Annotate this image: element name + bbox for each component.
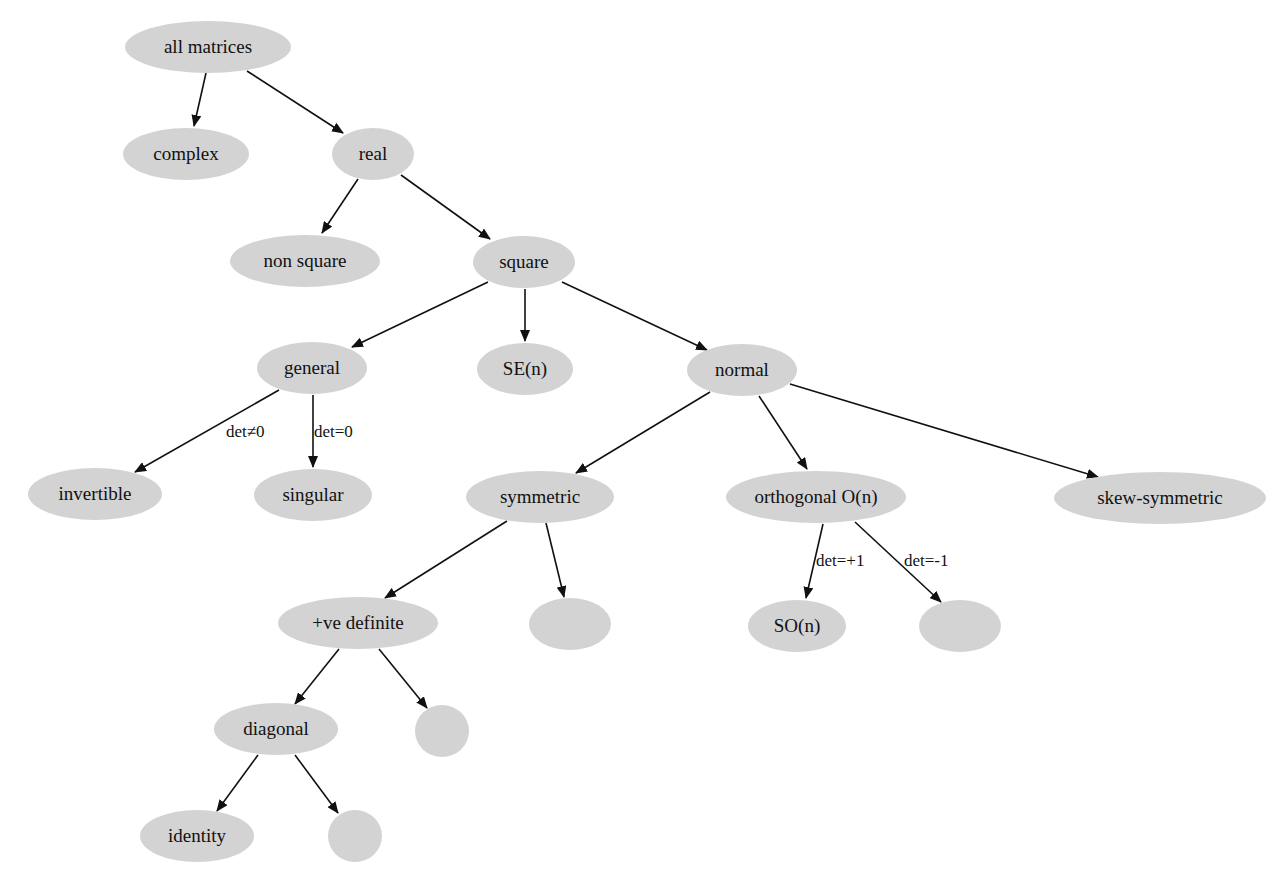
node-square: square (473, 236, 575, 288)
node-complex: complex (123, 128, 249, 180)
node-identity: identity (140, 810, 254, 862)
edge-square-to-normal (562, 282, 707, 350)
arrow-icon (217, 755, 258, 811)
arrow-icon (379, 649, 427, 708)
node-ellipse (328, 810, 382, 862)
arrow-icon (576, 392, 710, 473)
node-label: diagonal (243, 718, 308, 739)
node-symmetric: symmetric (466, 471, 614, 523)
arrow-icon (790, 384, 1098, 477)
node-non-square: non square (230, 235, 380, 287)
node-pos-definite: +ve definite (278, 597, 438, 649)
edge-diagonal-to-diag_other (295, 755, 338, 813)
arrow-icon (546, 523, 564, 597)
arrow-icon (562, 282, 707, 350)
node-singular: singular (254, 469, 372, 521)
node-label: complex (153, 143, 219, 164)
node-label: invertible (59, 483, 132, 504)
edge-all_matrices-to-real (247, 71, 343, 133)
edge-real-to-non_square (322, 179, 358, 233)
node-label: SE(n) (503, 358, 547, 380)
edge-pos_definite-to-pd_other (379, 649, 427, 708)
arrow-icon (247, 71, 343, 133)
arrow-icon (759, 396, 807, 469)
node-real: real (332, 128, 414, 180)
node-general: general (257, 342, 367, 394)
edges: det≠0det=0det=+1det=-1 (135, 71, 1098, 813)
edge-label: det≠0 (226, 422, 265, 441)
edge-general-to-singular: det=0 (313, 395, 353, 467)
arrow-icon (352, 282, 488, 347)
node-normal: normal (687, 344, 797, 396)
edge-normal-to-skew_symmetric (790, 384, 1098, 477)
node-label: general (284, 357, 340, 378)
node-label: normal (715, 359, 769, 380)
edge-square-to-general (352, 282, 488, 347)
edge-symmetric-to-pos_definite (385, 521, 507, 598)
arrow-icon (194, 73, 206, 126)
node-sym-other (529, 598, 611, 650)
edge-orthogonal-to-so_n: det=+1 (806, 524, 864, 598)
node-label: real (359, 143, 387, 164)
nodes: all matricescomplexrealnon squaresquareg… (28, 21, 1266, 862)
edge-real-to-square (401, 175, 490, 239)
arrow-icon (322, 179, 358, 233)
node-label: symmetric (500, 486, 580, 507)
node-all-matrices: all matrices (125, 21, 291, 73)
edge-normal-to-symmetric (576, 392, 710, 473)
node-label: square (499, 251, 549, 272)
edge-label: det=+1 (816, 551, 864, 570)
node-se-n: SE(n) (477, 343, 573, 395)
edge-general-to-invertible: det≠0 (135, 390, 279, 472)
edge-symmetric-to-sym_other (546, 523, 564, 597)
node-diag-other (328, 810, 382, 862)
node-det-neg-one (919, 600, 1001, 652)
edge-pos_definite-to-diagonal (295, 649, 339, 704)
node-skew-symmetric: skew-symmetric (1054, 472, 1266, 524)
arrow-icon (295, 649, 339, 704)
arrow-icon (385, 521, 507, 598)
node-label: singular (282, 484, 344, 505)
edge-orthogonal-to-det_neg_one: det=-1 (855, 522, 949, 602)
node-label: orthogonal O(n) (755, 486, 878, 508)
arrow-icon (295, 755, 338, 813)
node-label: identity (168, 825, 227, 846)
node-label: SO(n) (774, 615, 820, 637)
edge-diagonal-to-identity (217, 755, 258, 811)
node-ellipse (529, 598, 611, 650)
edge-normal-to-orthogonal (759, 396, 807, 469)
node-pd-other (415, 705, 469, 757)
node-so-n: SO(n) (748, 600, 846, 652)
tree-diagram: det≠0det=0det=+1det=-1 all matricescompl… (0, 0, 1286, 891)
node-label: non square (264, 250, 347, 271)
node-invertible: invertible (28, 468, 162, 520)
node-orthogonal: orthogonal O(n) (726, 471, 906, 523)
arrow-icon (401, 175, 490, 239)
node-label: +ve definite (312, 612, 403, 633)
node-ellipse (415, 705, 469, 757)
edge-all_matrices-to-complex (194, 73, 206, 126)
edge-label: det=0 (314, 422, 353, 441)
node-label: skew-symmetric (1097, 487, 1223, 508)
node-diagonal: diagonal (214, 703, 338, 755)
node-label: all matrices (164, 36, 252, 57)
edge-label: det=-1 (904, 551, 949, 570)
node-ellipse (919, 600, 1001, 652)
